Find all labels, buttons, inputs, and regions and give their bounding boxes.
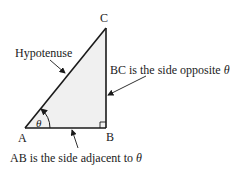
hypotenuse-arrow: [50, 60, 65, 73]
right-triangle-diagram: C A B θ Hypotenuse BC is the side opposi…: [0, 0, 252, 170]
adjacent-side-label: AB is the side adjacent to θ: [10, 152, 142, 164]
opposite-side-label: BC is the side opposite θ: [110, 64, 230, 76]
triangle-graphic: [0, 0, 252, 170]
vertex-a-label: A: [18, 132, 27, 144]
hypotenuse-label: Hypotenuse: [15, 47, 72, 59]
vertex-b-label: B: [106, 131, 114, 143]
adjacent-arrow: [72, 130, 78, 148]
opposite-arrow: [108, 76, 146, 95]
opposite-theta: θ: [224, 63, 230, 77]
adjacent-text: AB is the side adjacent to: [10, 151, 136, 165]
vertex-c-label: C: [100, 12, 108, 24]
opposite-text: BC is the side opposite: [110, 63, 224, 77]
adjacent-theta: θ: [136, 151, 142, 165]
angle-theta-label: θ: [36, 117, 41, 129]
